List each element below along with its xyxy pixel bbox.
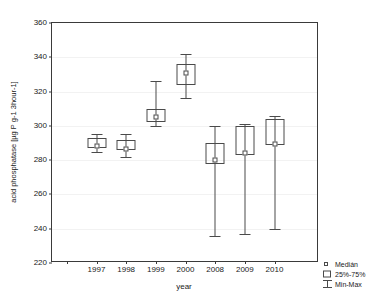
- x-tick-mark: [275, 261, 276, 264]
- x-tick-label: 2010: [266, 266, 284, 274]
- x-tick-mark: [126, 261, 127, 264]
- y-tick-label: 360: [34, 19, 47, 27]
- y-tick-mark: [49, 125, 52, 126]
- y-tick-mark: [49, 91, 52, 92]
- y-tick-mark: [49, 263, 52, 264]
- y-tick-mark: [49, 194, 52, 195]
- y-tick-label: 260: [34, 190, 47, 198]
- x-tick-mark: [245, 261, 246, 264]
- y-tick-label: 320: [34, 88, 47, 96]
- legend-label-quartiles: 25%-75%: [335, 271, 365, 278]
- x-tick-mark: [186, 261, 187, 264]
- x-tick-label: 2008: [206, 266, 224, 274]
- x-tick-label: 1999: [147, 266, 165, 274]
- y-tick-label: 280: [34, 156, 47, 164]
- plot-frame: 2202402602803003203403601997199819992000…: [51, 22, 318, 262]
- y-tick-label: 300: [34, 122, 47, 130]
- box-marker-icon: [322, 269, 333, 279]
- y-tick-mark: [49, 57, 52, 58]
- median-marker: [272, 141, 277, 146]
- median-marker: [213, 158, 218, 163]
- x-tick-label: 1997: [88, 266, 106, 274]
- median-marker: [94, 144, 99, 149]
- y-tick-label: 240: [34, 225, 47, 233]
- legend-label-median: Medián: [335, 261, 358, 268]
- boxplot-figure: acid phosphatase [µg P g-1 3hour-1] 2202…: [0, 0, 377, 299]
- plot-area: 2202402602803003203403601997199819992000…: [52, 23, 317, 261]
- x-axis-title: year: [176, 283, 192, 291]
- whisker-cap-max: [180, 54, 191, 55]
- median-marker: [183, 70, 188, 75]
- whisker-cap-min: [91, 152, 102, 153]
- y-tick-label: 220: [34, 259, 47, 267]
- median-marker: [124, 147, 129, 152]
- boxplot-1997: [85, 23, 109, 261]
- whisker-cap-max: [91, 134, 102, 135]
- whisker-cap-max: [150, 81, 161, 82]
- whisker-cap-max: [269, 116, 280, 117]
- whisker-cap-max: [210, 126, 221, 127]
- whisker-marker-icon: [322, 279, 333, 289]
- whisker-cap-min: [239, 234, 250, 235]
- whisker-cap-min: [269, 229, 280, 230]
- legend-item-minmax: Min-Max: [322, 279, 365, 289]
- boxplot-2008: [203, 23, 227, 261]
- x-tick-mark: [215, 261, 216, 264]
- legend-item-median: Medián: [322, 259, 365, 269]
- whisker-cap-min: [180, 98, 191, 99]
- y-tick-mark: [49, 23, 52, 24]
- x-tick-label: 1998: [117, 266, 135, 274]
- x-tick-mark: [156, 261, 157, 264]
- median-marker: [153, 115, 158, 120]
- boxplot-2010: [263, 23, 287, 261]
- boxplot-1998: [114, 23, 138, 261]
- x-tick-label: 2000: [177, 266, 195, 274]
- y-tick-mark: [49, 160, 52, 161]
- x-tick-mark: [67, 261, 68, 264]
- whisker-cap-min: [150, 126, 161, 127]
- median-marker: [242, 151, 247, 156]
- whisker-cap-min: [210, 236, 221, 237]
- boxplot-2009: [233, 23, 257, 261]
- boxplot-2000: [174, 23, 198, 261]
- x-tick-label: 2009: [236, 266, 254, 274]
- y-axis-title: acid phosphatase [µg P g-1 3hour-1]: [10, 81, 18, 202]
- legend-item-quartiles: 25%-75%: [322, 269, 365, 279]
- median-marker-icon: [322, 259, 333, 269]
- x-tick-mark: [97, 261, 98, 264]
- whisker-cap-max: [121, 134, 132, 135]
- legend-label-minmax: Min-Max: [335, 281, 362, 288]
- y-tick-mark: [49, 228, 52, 229]
- y-tick-label: 340: [34, 53, 47, 61]
- boxplot-1999: [144, 23, 168, 261]
- chart-legend: Medián 25%-75% Min-Max: [322, 259, 365, 289]
- whisker-cap-min: [121, 157, 132, 158]
